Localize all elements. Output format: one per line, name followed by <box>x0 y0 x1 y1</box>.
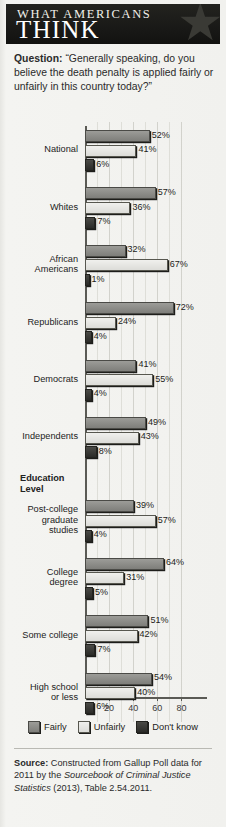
bar-unfairly <box>85 374 153 386</box>
bar-value-label: 7% <box>97 216 110 226</box>
bar-value-label: 4% <box>94 388 107 398</box>
bar-value-label: 41% <box>138 144 156 154</box>
bar-value-label: 52% <box>152 130 170 140</box>
legend-swatch <box>78 721 90 733</box>
infographic-page: ★ WHAT AMERICANS THINK Question: “Genera… <box>0 0 226 827</box>
bar-value-label: 49% <box>148 417 166 427</box>
bar-unfairly <box>85 515 156 527</box>
category-label-democrats: Democrats <box>0 374 78 385</box>
bar-value-label: 32% <box>128 244 146 254</box>
bar-don-t-know <box>85 274 90 286</box>
x-tick <box>157 697 158 701</box>
bar-value-label: 39% <box>136 500 154 510</box>
category-label-republicans: Republicans <box>0 317 78 328</box>
bar-fairly <box>85 130 150 142</box>
category-label-post-college-graduate-studies: Post-collegegraduatestudies <box>0 504 78 536</box>
category-label-independents: Independents <box>0 431 78 442</box>
category-label-high-school-or-less: High schoolor less <box>0 682 78 703</box>
legend-swatch <box>28 721 40 733</box>
bar-don-t-know <box>85 644 95 656</box>
bar-unfairly <box>85 259 168 271</box>
bar-value-label: 67% <box>170 259 188 269</box>
divider <box>14 748 212 749</box>
bar-fairly <box>85 500 134 512</box>
x-tick-label: 80 <box>176 703 186 713</box>
banner-line2: THINK <box>16 17 100 43</box>
legend-item: Fairly <box>28 721 67 733</box>
bar-don-t-know <box>85 217 95 229</box>
bar-fairly <box>85 558 164 570</box>
bar-value-label: 24% <box>118 316 136 326</box>
bar-fairly <box>85 615 148 627</box>
bar-value-label: 42% <box>140 629 158 639</box>
bar-value-label: 57% <box>158 515 176 525</box>
legend-item: Don't know <box>136 721 198 733</box>
category-label-national: National <box>0 144 78 155</box>
bar-value-label: 43% <box>141 431 159 441</box>
bar-fairly <box>85 245 126 257</box>
bar-don-t-know <box>85 587 93 599</box>
bar-don-t-know <box>85 159 94 171</box>
bar-value-label: 40% <box>137 687 155 697</box>
bar-value-label: 57% <box>158 187 176 197</box>
bar-value-label: 5% <box>95 587 108 597</box>
bar-unfairly <box>85 317 116 329</box>
category-label-some-college: Some college <box>0 630 78 641</box>
question-label: Question: <box>14 53 63 64</box>
gridline <box>181 122 182 722</box>
bar-fairly <box>85 302 174 314</box>
bar-unfairly <box>85 432 139 444</box>
bar-unfairly <box>85 202 130 214</box>
bar-value-label: 6% <box>96 159 109 169</box>
bar-value-label: 4% <box>94 331 107 341</box>
bar-value-label: 64% <box>166 557 184 567</box>
legend-label: Don't know <box>152 722 198 732</box>
category-label-african-americans: AfricanAmericans <box>0 254 78 275</box>
bar-value-label: 72% <box>176 302 194 312</box>
bar-value-label: 4% <box>94 529 107 539</box>
bar-value-label: 51% <box>150 615 168 625</box>
bar-don-t-know <box>85 389 92 401</box>
bar-fairly <box>85 673 152 685</box>
source-text-b: (2013), Table 2.54.2011. <box>51 783 152 793</box>
legend-label: Fairly <box>44 722 67 732</box>
bar-value-label: 55% <box>155 374 173 384</box>
bar-unfairly <box>85 572 124 584</box>
section-header-education-level: EducationLevel <box>20 473 90 494</box>
x-tick-label: 40 <box>128 703 138 713</box>
bar-don-t-know <box>85 702 94 714</box>
bar-value-label: 1% <box>92 274 105 284</box>
bar-unfairly <box>85 145 136 157</box>
bar-value-label: 6% <box>96 701 109 711</box>
x-tick <box>181 697 182 701</box>
bar-fairly <box>85 187 156 199</box>
bar-don-t-know <box>85 530 92 542</box>
legend-swatch <box>136 721 148 733</box>
bar-unfairly <box>85 630 138 642</box>
gridline-minor <box>169 122 170 722</box>
question-block: Question: “Generally speaking, do you be… <box>14 52 214 95</box>
header-banner: ★ WHAT AMERICANS THINK <box>6 4 220 44</box>
bar-fairly <box>85 360 136 372</box>
bar-value-label: 41% <box>138 359 156 369</box>
chart-legend: FairlyUnfairlyDon't know <box>0 716 226 738</box>
bar-don-t-know <box>85 446 97 458</box>
category-label-whites: Whites <box>0 202 78 213</box>
bar-value-label: 7% <box>97 644 110 654</box>
category-label-college-degree: Collegedegree <box>0 567 78 588</box>
source-note: Source: Constructed from Gallup Poll dat… <box>14 757 214 794</box>
legend-item: Unfairly <box>78 721 126 733</box>
bar-chart: 20406080 52%41%6%57%36%7%32%67%1%72%24%4… <box>0 122 226 722</box>
bar-value-label: 54% <box>154 672 172 682</box>
x-tick-label: 60 <box>152 703 162 713</box>
bar-don-t-know <box>85 331 92 343</box>
bar-unfairly <box>85 687 135 699</box>
bar-fairly <box>85 417 146 429</box>
bar-value-label: 36% <box>132 202 150 212</box>
star-icon: ★ <box>174 4 220 44</box>
bar-value-label: 8% <box>99 446 112 456</box>
source-label: Source: <box>14 758 48 768</box>
legend-label: Unfairly <box>94 722 126 732</box>
bar-value-label: 31% <box>126 572 144 582</box>
